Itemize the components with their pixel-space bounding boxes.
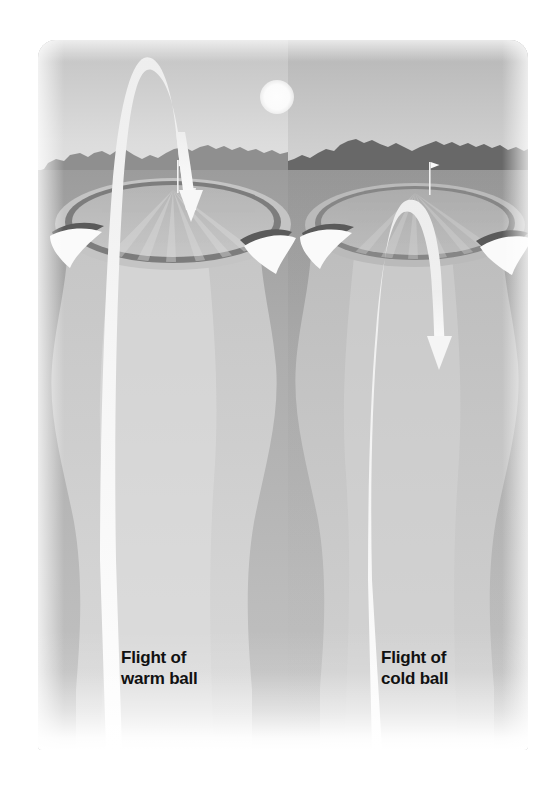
putting-green-warm (44, 170, 302, 290)
golf-flight-illustration: Flight of warm ball Flight of cold ball (0, 0, 556, 794)
pin-flag-cold (426, 160, 442, 196)
caption-cold-ball: Flight of cold ball (381, 647, 448, 689)
bottom-fade (38, 630, 528, 750)
sun-icon (260, 80, 294, 114)
pin-flag-warm (174, 158, 190, 194)
caption-warm-ball: Flight of warm ball (121, 647, 198, 689)
putting-green-cold (296, 175, 528, 290)
illustration-panel: Flight of warm ball Flight of cold ball (38, 40, 528, 750)
top-fade (38, 40, 528, 62)
